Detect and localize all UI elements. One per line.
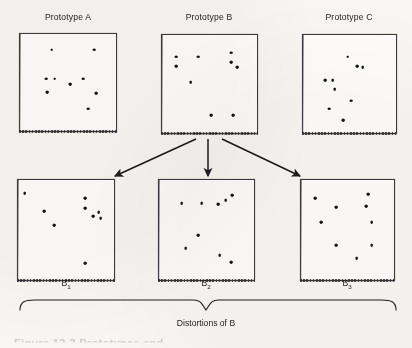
figure-canvas: Prototype A Prototype B Prototype C B1 B… [0,0,412,348]
distortions-caption: Distortions of B [0,318,412,328]
arrow-b-to-b1 [115,139,196,176]
arrow-layer [115,139,300,176]
distortions-brace [20,300,396,310]
connector-overlay [0,0,412,348]
arrow-b-to-b3 [222,139,300,176]
